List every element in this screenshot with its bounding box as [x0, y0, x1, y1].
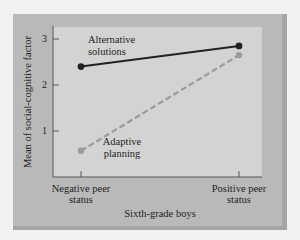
- alternative-solutions-label-line1: Alternative: [88, 34, 135, 46]
- x-category-positive: Positive peer status: [209, 183, 269, 205]
- x-axis-label: Sixth-grade boys: [110, 208, 210, 219]
- adaptive-planning-point-negative: [78, 148, 84, 154]
- x-category-positive-line2: status: [209, 194, 269, 205]
- y-tick-label-3: 3: [37, 33, 47, 44]
- y-tick-label-1: 1: [37, 125, 47, 136]
- adaptive-planning-label-line2: planning: [102, 148, 142, 160]
- y-tick-label-2: 2: [37, 79, 47, 90]
- alternative-solutions-label-line2: solutions: [88, 46, 135, 58]
- x-category-positive-line1: Positive peer: [209, 183, 269, 194]
- x-category-negative: Negative peer status: [51, 183, 111, 205]
- alternative-solutions-point-negative: [78, 63, 85, 70]
- adaptive-planning-point-positive: [236, 52, 242, 58]
- y-axis-label: Mean of social-cognitive factor: [22, 36, 33, 168]
- adaptive-planning-label-line1: Adaptive: [102, 136, 142, 148]
- x-category-negative-line2: status: [51, 194, 111, 205]
- x-category-negative-line1: Negative peer: [51, 183, 111, 194]
- alternative-solutions-label: Alternative solutions: [88, 34, 135, 58]
- alternative-solutions-point-positive: [236, 43, 243, 50]
- adaptive-planning-label: Adaptive planning: [102, 136, 142, 160]
